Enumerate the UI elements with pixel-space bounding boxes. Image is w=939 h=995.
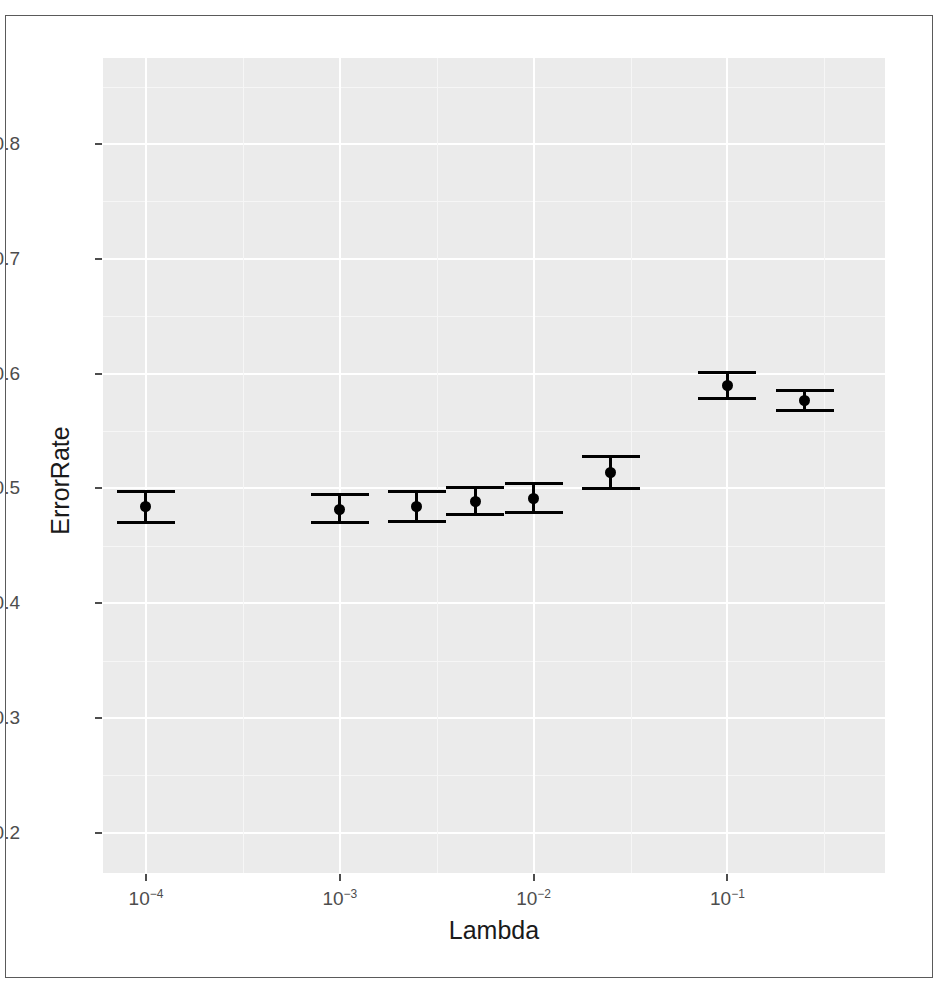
y-axis-tick-mark [95, 717, 102, 719]
gridline-minor-vertical [437, 58, 438, 873]
gridline-major-vertical [145, 58, 147, 873]
y-axis-tick-mark [95, 487, 102, 489]
gridline-major-horizontal [103, 373, 885, 375]
x-axis-tick-label: 10−3 [322, 887, 357, 910]
gridline-minor-vertical [824, 58, 825, 873]
y-axis-tick-label: 0.8 [0, 133, 20, 155]
errorbar-cap-upper [388, 490, 446, 493]
errorbar-cap-upper [446, 486, 504, 489]
y-axis-tick-label: 0.3 [0, 707, 20, 729]
errorbar-cap-upper [698, 371, 756, 374]
x-axis-tick-label: 10−1 [710, 887, 745, 910]
errorbar-cap-lower [505, 511, 563, 514]
data-point-marker [470, 496, 481, 507]
gridline-minor-horizontal [103, 87, 885, 88]
gridline-minor-horizontal [103, 775, 885, 776]
gridline-minor-vertical [631, 58, 632, 873]
gridline-minor-horizontal [103, 431, 885, 432]
data-point-marker [722, 380, 733, 391]
errorbar-cap-lower [776, 409, 834, 412]
y-axis-tick-mark [95, 258, 102, 260]
y-axis-title: ErrorRate [46, 381, 75, 581]
plot-panel [103, 58, 885, 873]
gridline-major-horizontal [103, 832, 885, 834]
y-axis-tick-label: 0.7 [0, 248, 20, 270]
gridline-major-horizontal [103, 602, 885, 604]
gridline-major-vertical [533, 58, 535, 873]
gridline-major-horizontal [103, 258, 885, 260]
data-point-marker [334, 504, 345, 515]
errorbar-cap-lower [698, 397, 756, 400]
y-axis-tick-label: 0.5 [0, 477, 20, 499]
x-axis-tick-label: 10−2 [516, 887, 551, 910]
y-axis-tick-mark [95, 602, 102, 604]
errorbar-cap-upper [505, 482, 563, 485]
gridline-minor-horizontal [103, 661, 885, 662]
errorbar-cap-lower [582, 487, 640, 490]
y-axis-tick-label: 0.2 [0, 822, 20, 844]
errorbar-cap-lower [117, 521, 175, 524]
y-axis-tick-label: 0.4 [0, 592, 20, 614]
data-point-marker [799, 395, 810, 406]
errorbar-cap-upper [776, 389, 834, 392]
gridline-minor-horizontal [103, 316, 885, 317]
errorbar-cap-lower [388, 520, 446, 523]
errorbar-cap-upper [582, 455, 640, 458]
gridline-minor-horizontal [103, 546, 885, 547]
y-axis-tick-label: 0.6 [0, 363, 20, 385]
errorbar-cap-lower [446, 513, 504, 516]
gridline-major-vertical [339, 58, 341, 873]
x-axis-tick-mark [145, 874, 147, 881]
errorbar-cap-upper [311, 493, 369, 496]
gridline-major-horizontal [103, 143, 885, 145]
x-axis-tick-mark [726, 874, 728, 881]
gridline-minor-horizontal [103, 201, 885, 202]
errorbar-cap-lower [311, 521, 369, 524]
x-axis-title: Lambda [103, 916, 885, 945]
x-axis-tick-mark [339, 874, 341, 881]
x-axis-tick-label: 10−4 [129, 887, 164, 910]
gridline-major-horizontal [103, 717, 885, 719]
chart-plot-area: ErrorRate Lambda 0.20.30.40.50.60.70.810… [0, 0, 939, 995]
gridline-minor-vertical [243, 58, 244, 873]
x-axis-tick-mark [533, 874, 535, 881]
errorbar-cap-upper [117, 490, 175, 493]
y-axis-tick-mark [95, 143, 102, 145]
y-axis-tick-mark [95, 832, 102, 834]
gridline-major-vertical [726, 58, 728, 873]
y-axis-tick-mark [95, 373, 102, 375]
